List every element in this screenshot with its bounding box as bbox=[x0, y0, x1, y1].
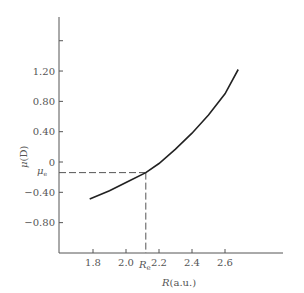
mue-label: μe bbox=[37, 165, 48, 177]
axes bbox=[59, 17, 283, 253]
y-tick-label: 0.80 bbox=[33, 96, 55, 107]
x-axis-label: R(a.u.) bbox=[161, 277, 196, 288]
x-ticks: 1.82.02.22.42.6 bbox=[85, 249, 233, 268]
x-tick-label: 2.0 bbox=[118, 257, 134, 268]
y-tick-label: 0 bbox=[49, 157, 55, 168]
x-tick-label: 2.6 bbox=[217, 257, 233, 268]
x-tick-label: 1.8 bbox=[85, 257, 101, 268]
dipole-moment-chart: 1.200.800.400−0.40−0.80 1.82.02.22.42.6 … bbox=[0, 0, 304, 293]
y-tick-label: 0.40 bbox=[33, 126, 55, 137]
y-tick-label: −0.80 bbox=[24, 217, 55, 228]
dipole-curve bbox=[90, 70, 239, 200]
y-tick-label: −0.40 bbox=[24, 187, 55, 198]
y-tick-label: 1.20 bbox=[33, 66, 55, 77]
re-guides bbox=[59, 173, 146, 253]
x-axis-label-unit: (a.u.) bbox=[170, 277, 197, 288]
x-tick-label: 2.2 bbox=[151, 257, 167, 268]
re-label-sub: e bbox=[147, 264, 151, 272]
mue-label-sub: e bbox=[44, 170, 48, 177]
y-axis-label: μ(D) bbox=[18, 146, 29, 168]
re-label: Re bbox=[138, 259, 151, 272]
y-ticks: 1.200.800.400−0.40−0.80 bbox=[24, 41, 63, 228]
x-tick-label: 2.4 bbox=[184, 257, 200, 268]
y-axis-label-unit: (D) bbox=[18, 146, 29, 162]
